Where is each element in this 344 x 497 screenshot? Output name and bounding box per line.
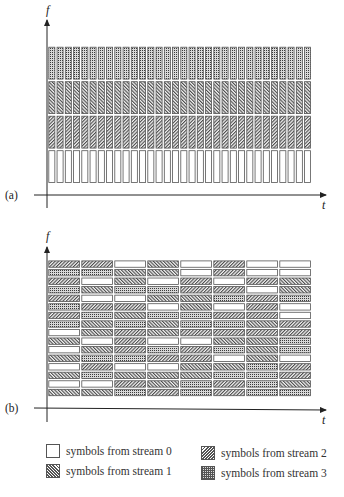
symbol-stream-2	[148, 82, 154, 114]
symbol-stream-1	[49, 261, 80, 267]
symbol-stream-1	[239, 116, 245, 148]
symbol-stream-0	[49, 347, 80, 353]
symbol-stream-3	[115, 321, 146, 327]
symbol-stream-1	[214, 381, 245, 387]
symbol-stream-2	[82, 389, 113, 395]
symbol-stream-2	[82, 321, 113, 327]
symbol-stream-3	[280, 47, 286, 79]
symbol-stream-2	[148, 295, 179, 301]
symbol-stream-2	[107, 82, 113, 114]
symbol-stream-2	[280, 82, 286, 114]
symbol-stream-1	[181, 116, 187, 148]
symbol-stream-2	[123, 82, 129, 114]
symbol-stream-1	[247, 329, 278, 335]
panel-b-f-label: f	[46, 229, 51, 243]
symbol-stream-2	[189, 82, 195, 114]
symbol-stream-2	[148, 321, 179, 327]
symbol-stream-1	[247, 295, 278, 301]
symbol-stream-3	[280, 295, 311, 301]
symbol-stream-3	[65, 47, 71, 79]
symbol-stream-1	[280, 372, 311, 378]
symbol-stream-3	[115, 287, 146, 293]
symbol-stream-0	[82, 278, 113, 284]
symbol-stream-2	[272, 82, 278, 114]
symbol-stream-2	[206, 82, 212, 114]
symbol-stream-0	[65, 151, 71, 183]
symbol-stream-2	[82, 82, 88, 114]
symbol-stream-1	[107, 116, 113, 148]
symbol-stream-3	[49, 47, 55, 79]
symbol-stream-3	[148, 47, 154, 79]
symbol-stream-3	[148, 347, 179, 353]
symbol-stream-0	[148, 304, 179, 310]
stream-2-swatch-icon	[201, 446, 215, 460]
symbol-stream-0	[296, 151, 302, 183]
symbol-stream-2	[280, 278, 311, 284]
symbol-stream-3	[305, 47, 311, 79]
symbol-stream-1	[173, 116, 179, 148]
symbol-stream-3	[115, 389, 146, 395]
symbol-stream-0	[280, 261, 311, 267]
panel-b-t-label: t	[322, 413, 326, 427]
symbol-stream-2	[148, 381, 179, 387]
symbol-stream-0	[272, 151, 278, 183]
symbol-stream-0	[230, 151, 236, 183]
symbol-stream-3	[214, 321, 245, 327]
symbol-stream-3	[131, 47, 137, 79]
symbol-stream-2	[49, 355, 80, 361]
symbol-stream-0	[197, 151, 203, 183]
symbol-stream-3	[247, 381, 278, 387]
symbol-stream-0	[156, 151, 162, 183]
symbol-stream-0	[115, 295, 146, 301]
symbol-stream-1	[230, 116, 236, 148]
symbol-stream-0	[247, 287, 278, 293]
symbol-stream-1	[57, 116, 63, 148]
symbol-stream-3	[49, 269, 80, 275]
symbol-stream-1	[296, 116, 302, 148]
symbol-stream-2	[247, 321, 278, 327]
symbol-stream-2	[90, 82, 96, 114]
symbol-stream-3	[189, 47, 195, 79]
symbol-stream-3	[239, 47, 245, 79]
symbol-stream-1	[74, 116, 80, 148]
symbol-stream-0	[280, 312, 311, 318]
symbol-stream-3	[90, 47, 96, 79]
symbol-stream-3	[164, 47, 170, 79]
legend-label: symbols from stream 1	[66, 465, 172, 477]
symbol-stream-0	[263, 151, 269, 183]
symbol-stream-2	[247, 355, 278, 361]
symbol-stream-2	[197, 82, 203, 114]
symbol-stream-2	[214, 364, 245, 370]
symbol-stream-2	[181, 82, 187, 114]
symbol-stream-2	[115, 278, 146, 284]
symbol-stream-1	[115, 347, 146, 353]
symbol-stream-2	[156, 82, 162, 114]
symbol-stream-1	[140, 116, 146, 148]
symbol-stream-1	[206, 116, 212, 148]
symbol-stream-2	[181, 295, 212, 301]
symbol-stream-3	[148, 287, 179, 293]
symbol-stream-3	[263, 47, 269, 79]
symbol-stream-0	[115, 261, 146, 267]
symbol-stream-1	[247, 116, 253, 148]
symbol-stream-0	[148, 364, 179, 370]
symbol-stream-3	[214, 347, 245, 353]
symbol-stream-3	[107, 47, 113, 79]
symbol-stream-3	[181, 47, 187, 79]
symbol-stream-1	[164, 116, 170, 148]
symbol-stream-3	[288, 47, 294, 79]
symbol-stream-1	[49, 295, 80, 301]
symbol-stream-0	[123, 151, 129, 183]
symbol-stream-1	[214, 261, 245, 267]
symbol-stream-1	[148, 389, 179, 395]
symbol-stream-0	[82, 151, 88, 183]
symbol-stream-1	[189, 116, 195, 148]
panel-a-label: (a)	[5, 189, 18, 202]
symbol-stream-2	[173, 82, 179, 114]
symbol-stream-3	[214, 372, 245, 378]
symbol-stream-2	[49, 82, 55, 114]
symbol-stream-1	[214, 269, 245, 275]
symbol-stream-3	[280, 389, 311, 395]
symbol-stream-2	[148, 261, 179, 267]
symbol-stream-2	[305, 82, 311, 114]
